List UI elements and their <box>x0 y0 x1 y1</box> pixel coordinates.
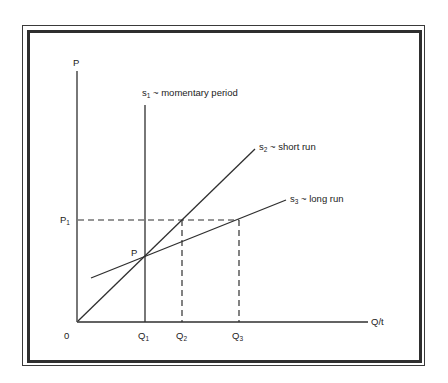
supply-diagram: P Q/t 0 P1 P Q1 Q2 Q3 s1 ~ momentary per… <box>0 0 448 383</box>
x-axis-label: Q/t <box>371 316 384 327</box>
curve-s2-short-run <box>78 149 255 321</box>
curve-s3-long-run <box>91 200 286 278</box>
s1-label: s1 ~ momentary period <box>142 87 238 99</box>
y-axis-label: P <box>73 57 79 68</box>
q3-label: Q3 <box>232 330 243 342</box>
p1-label: P1 <box>60 214 70 226</box>
s2-label: s2 ~ short run <box>259 141 316 153</box>
q2-label: Q2 <box>176 330 187 342</box>
equilibrium-point-label: P <box>131 247 137 258</box>
s3-label: s3 ~ long run <box>290 193 344 205</box>
origin-label: 0 <box>64 330 69 341</box>
q1-label: Q1 <box>138 330 149 342</box>
